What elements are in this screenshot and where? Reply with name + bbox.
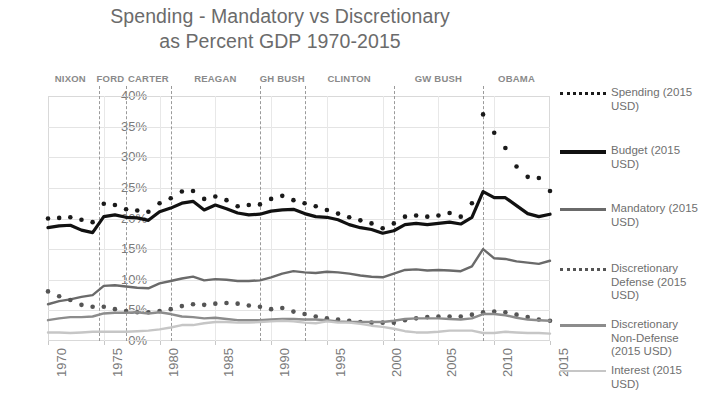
- x-axis-tick-label: 1995: [333, 348, 348, 377]
- legend-label: Discretionary Defense (2015 USD): [611, 262, 701, 303]
- legend-item[interactable]: Interest (2015 USD): [560, 364, 701, 391]
- legend-item[interactable]: Spending (2015 USD): [560, 86, 701, 113]
- series-point: [258, 304, 263, 309]
- x-axis-tick: [494, 341, 495, 345]
- series-point: [168, 196, 173, 201]
- series-point: [68, 298, 73, 303]
- series-point: [213, 301, 218, 306]
- series-point: [280, 194, 285, 199]
- chart-container: Spending - Mandatory vs Discretionary as…: [0, 0, 701, 393]
- series-point: [458, 214, 463, 219]
- legend-swatch: [560, 262, 606, 276]
- series-point: [336, 211, 341, 216]
- series-point: [191, 189, 196, 194]
- president-label: CARTER: [128, 73, 169, 84]
- series-point: [180, 189, 185, 194]
- legend-swatch: [560, 318, 606, 332]
- x-axis-tick-label: 2005: [444, 348, 459, 377]
- series-point: [258, 202, 263, 207]
- series-point: [470, 312, 475, 317]
- legend-swatch: [560, 144, 606, 158]
- series-point: [436, 213, 441, 218]
- series-point: [68, 215, 73, 220]
- series-point: [291, 198, 296, 203]
- series-point: [101, 202, 106, 207]
- series-point: [358, 218, 363, 223]
- series-point: [325, 208, 330, 213]
- legend-item[interactable]: Budget (2015 USD): [560, 144, 701, 171]
- series-point: [79, 217, 84, 222]
- series-point: [113, 307, 118, 312]
- legend-item[interactable]: Discretionary Non-Defense (2015 USD): [560, 318, 701, 359]
- series-point: [280, 306, 285, 311]
- series-mandatory-2015-usd: [48, 249, 550, 304]
- x-axis-tick: [550, 341, 551, 345]
- series-point: [447, 211, 452, 216]
- president-label: GH BUSH: [260, 73, 305, 84]
- series-point: [135, 208, 140, 213]
- series-point: [514, 164, 519, 169]
- x-axis-tick-label: 2000: [389, 348, 404, 377]
- series-point: [425, 214, 430, 219]
- x-axis-tick: [160, 341, 161, 345]
- series-point: [525, 175, 530, 180]
- x-axis-tick-label: 1975: [110, 348, 125, 377]
- series-point: [302, 312, 307, 317]
- series-point: [213, 194, 218, 199]
- chart-title: Spending - Mandatory vs Discretionary as…: [0, 4, 560, 54]
- legend-swatch: [560, 364, 606, 378]
- series-point: [313, 204, 318, 209]
- series-point: [224, 198, 229, 203]
- series-point: [347, 215, 352, 220]
- series-point: [503, 146, 508, 151]
- series-discretionary-non-defense-2015-usd: [48, 312, 550, 322]
- x-axis-tick-label: 1970: [54, 348, 69, 377]
- x-axis-tick-label: 2010: [500, 348, 515, 377]
- president-label: OBAMA: [498, 73, 535, 84]
- series-point: [113, 203, 118, 208]
- series-point: [101, 304, 106, 309]
- series-point: [392, 221, 397, 226]
- series-point: [548, 189, 553, 194]
- series-point: [414, 213, 419, 218]
- series-point: [247, 203, 252, 208]
- series-point: [380, 226, 385, 231]
- legend-item[interactable]: Mandatory (2015 USD): [560, 202, 701, 229]
- legend-label: Spending (2015 USD): [611, 86, 701, 113]
- chart-title-line-2: as Percent GDP 1970-2015: [0, 29, 560, 54]
- series-point: [235, 204, 240, 209]
- president-label: GW BUSH: [415, 73, 462, 84]
- series-point: [46, 216, 51, 221]
- series-point: [269, 197, 274, 202]
- legend-swatch: [560, 86, 606, 100]
- x-axis-tick: [438, 341, 439, 345]
- series-point: [481, 112, 486, 117]
- legend-label: Mandatory (2015 USD): [611, 202, 701, 229]
- series-budget-2015-usd: [48, 192, 550, 234]
- legend-swatch: [560, 202, 606, 216]
- series-point: [224, 301, 229, 306]
- series-point: [191, 302, 196, 307]
- x-axis-tick-label: 1980: [166, 348, 181, 377]
- series-point: [458, 314, 463, 319]
- legend-label: Interest (2015 USD): [611, 364, 701, 391]
- series-point: [470, 201, 475, 206]
- legend-item[interactable]: Discretionary Defense (2015 USD): [560, 262, 701, 303]
- series-point: [79, 303, 84, 308]
- series-point: [168, 307, 173, 312]
- x-axis-tick-label: 1985: [221, 348, 236, 377]
- president-label: REAGAN: [194, 73, 236, 84]
- series-interest-2015-usd: [48, 321, 550, 334]
- series-point: [180, 304, 185, 309]
- series-point: [90, 220, 95, 225]
- series-point: [235, 301, 240, 306]
- series-point: [124, 207, 129, 212]
- x-axis-tick-label: 1990: [277, 348, 292, 377]
- president-label: FORD: [97, 73, 125, 84]
- x-axis-tick: [271, 341, 272, 345]
- series-point: [302, 201, 307, 206]
- legend-label: Budget (2015 USD): [611, 144, 701, 171]
- series-point: [46, 289, 51, 294]
- series-point: [57, 216, 62, 221]
- x-axis-tick: [215, 341, 216, 345]
